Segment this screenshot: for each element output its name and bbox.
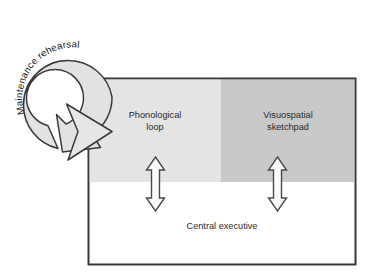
visuospatial-sketchpad-label-line1: Visuospatial bbox=[263, 110, 312, 120]
phonological-loop-label-line2: loop bbox=[146, 122, 163, 132]
working-memory-diagram: Maintenance rehearsal Phonological loop … bbox=[0, 0, 371, 280]
visuospatial-sketchpad-label-line2: sketchpad bbox=[267, 122, 309, 132]
diagram-canvas: Maintenance rehearsal Phonological loop … bbox=[0, 0, 371, 280]
central-executive-label: Central executive bbox=[187, 221, 258, 231]
phonological-loop-label-line1: Phonological bbox=[129, 110, 182, 120]
